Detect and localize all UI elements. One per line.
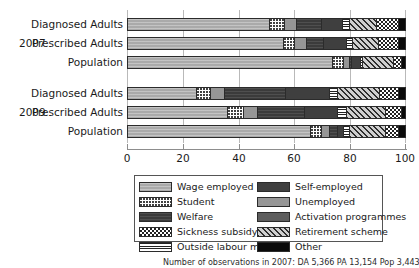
chart-caption: Number of observations in 2007: DA 5,366… bbox=[163, 258, 419, 268]
bar-segment-wage bbox=[128, 88, 197, 99]
legend-swatch-selfemployed bbox=[257, 182, 290, 192]
bar-segment-retirement bbox=[350, 126, 386, 137]
y-axis-category-name: Diagnosed Adults bbox=[31, 18, 123, 31]
legend-item-other[interactable]: Other bbox=[257, 239, 380, 254]
legend-label: Retirement scheme bbox=[295, 226, 388, 237]
bar-segment-retirement bbox=[347, 107, 386, 118]
bar-segment-student bbox=[197, 88, 211, 99]
x-axis-tick-100 bbox=[405, 144, 406, 150]
legend-item-unemployed[interactable]: Unemployed bbox=[257, 194, 380, 209]
legend-swatch-retirement bbox=[257, 227, 290, 237]
legend-label: Student bbox=[177, 196, 214, 207]
legend-item-selfemployed[interactable]: Self-employed bbox=[257, 179, 380, 194]
legend-swatch-wage bbox=[139, 182, 172, 192]
legend-label: Self-employed bbox=[295, 181, 363, 192]
legend-swatch-other bbox=[257, 242, 290, 252]
bar-segment-selfemployed bbox=[322, 19, 344, 30]
bar-segment-welfare bbox=[330, 126, 338, 137]
bar-2007-diagnosed-adults bbox=[127, 18, 406, 31]
bar-segment-student bbox=[311, 126, 322, 137]
bar-segment-student bbox=[333, 57, 344, 68]
bar-segment-unemployed bbox=[285, 19, 297, 30]
legend-item-student[interactable]: Student bbox=[139, 194, 257, 209]
bar-segment-selfemployed bbox=[305, 107, 338, 118]
legend-item-retirement[interactable]: Retirement scheme bbox=[257, 224, 380, 239]
bar-segment-other bbox=[399, 19, 405, 30]
bar-segment-sickness bbox=[380, 88, 399, 99]
legend-swatch-student bbox=[139, 197, 172, 207]
bar-2007-prescribed-adults bbox=[127, 37, 406, 50]
x-axis-line bbox=[127, 149, 407, 150]
x-axis-tick-60 bbox=[294, 144, 295, 150]
bar-segment-retirement bbox=[363, 57, 393, 68]
bar-segment-other bbox=[399, 88, 405, 99]
bar-segment-sickness bbox=[386, 107, 403, 118]
bar-segment-student bbox=[284, 38, 296, 49]
x-axis-tick-20 bbox=[183, 144, 184, 150]
bar-segment-other bbox=[402, 107, 405, 118]
legend-item-outside[interactable]: Outside labour market bbox=[139, 239, 257, 254]
x-axis-tick-0 bbox=[127, 144, 128, 150]
legend-swatch-welfare bbox=[139, 212, 172, 222]
bar-segment-retirement bbox=[350, 19, 378, 30]
x-axis-ticklabel-100: 100 bbox=[395, 152, 415, 164]
y-axis-category-name: Population bbox=[68, 125, 123, 138]
bar-segment-welfare bbox=[307, 38, 324, 49]
legend-grid: Wage employedSelf-employedStudentUnemplo… bbox=[139, 179, 380, 254]
bar-segment-unemployed bbox=[211, 88, 225, 99]
x-axis-tick-40 bbox=[239, 144, 240, 150]
x-axis-ticklabel-20: 20 bbox=[176, 152, 189, 164]
bar-segment-unemployed bbox=[322, 126, 330, 137]
bar-segment-other bbox=[402, 57, 405, 68]
bar-segment-wage bbox=[128, 57, 333, 68]
x-axis-ticklabel-40: 40 bbox=[232, 152, 245, 164]
y-axis-category-name: Prescribed Adults bbox=[32, 106, 123, 119]
bar-segment-wage bbox=[128, 19, 270, 30]
bar-segment-sickness bbox=[394, 57, 402, 68]
legend-swatch-activation bbox=[257, 212, 290, 222]
legend-item-sickness[interactable]: Sickness subsidy bbox=[139, 224, 257, 239]
bar-segment-selfemployed bbox=[324, 38, 347, 49]
legend-label: Other bbox=[295, 241, 322, 252]
bar-2009-population bbox=[127, 125, 406, 138]
bar-segment-welfare bbox=[258, 107, 305, 118]
legend-label: Unemployed bbox=[295, 196, 355, 207]
bar-segment-unemployed bbox=[295, 38, 307, 49]
legend-item-activation[interactable]: Activation programmes bbox=[257, 209, 380, 224]
bar-2009-prescribed-adults bbox=[127, 106, 406, 119]
bar-segment-wage bbox=[128, 38, 284, 49]
legend-swatch-outside bbox=[139, 242, 172, 252]
x-axis-ticklabel-0: 0 bbox=[124, 152, 131, 164]
bar-segment-retirement bbox=[353, 38, 379, 49]
legend-item-welfare[interactable]: Welfare bbox=[139, 209, 257, 224]
bar-segment-sickness bbox=[377, 19, 399, 30]
legend-swatch-unemployed bbox=[257, 197, 290, 207]
bar-segment-wage bbox=[128, 126, 311, 137]
bar-segment-sickness bbox=[386, 126, 400, 137]
legend-item-wage[interactable]: Wage employed bbox=[139, 179, 257, 194]
x-axis-tick-80 bbox=[350, 144, 351, 150]
bar-segment-other bbox=[399, 126, 405, 137]
bar-2007-population bbox=[127, 56, 406, 69]
bar-segment-welfare bbox=[297, 19, 322, 30]
legend-label: Wage employed bbox=[177, 181, 254, 192]
bar-segment-student bbox=[270, 19, 285, 30]
y-axis-category-name: Prescribed Adults bbox=[32, 37, 123, 50]
bar-segment-wage bbox=[128, 107, 228, 118]
plot-area bbox=[127, 10, 406, 143]
legend-label: Activation programmes bbox=[295, 211, 406, 222]
bar-segment-selfemployed bbox=[286, 88, 330, 99]
bar-2009-diagnosed-adults bbox=[127, 87, 406, 100]
bar-segment-selfemployed bbox=[352, 57, 360, 68]
chart-legend: Wage employedSelf-employedStudentUnemplo… bbox=[134, 175, 383, 242]
legend-swatch-sickness bbox=[139, 227, 172, 237]
bar-segment-outside bbox=[338, 107, 346, 118]
x-axis-ticklabel-80: 80 bbox=[343, 152, 356, 164]
bar-segment-unemployed bbox=[244, 107, 258, 118]
bar-segment-sickness bbox=[379, 38, 399, 49]
y-axis-category-name: Population bbox=[68, 56, 123, 69]
bar-segment-student bbox=[228, 107, 245, 118]
stacked-bar-chart: Diagnosed Adults 2007 Prescribed Adults … bbox=[0, 0, 419, 268]
bar-segment-other bbox=[399, 38, 405, 49]
legend-label: Sickness subsidy bbox=[177, 226, 257, 237]
